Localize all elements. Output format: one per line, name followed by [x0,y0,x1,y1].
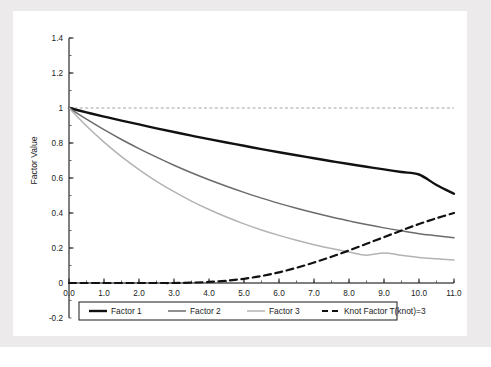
y-axis-title: Factor Value [29,136,39,184]
x-axis-tick-label: 11.0 [446,289,462,298]
y-axis-tick-label: 0.8 [52,139,64,148]
x-axis-tick-label: 8.0 [343,289,355,298]
y-axis-tick-label: 0.2 [52,244,64,253]
y-axis-tick-label: 0 [58,279,63,288]
y-axis-tick-label: 1.2 [52,69,64,78]
x-axis-tick-label: 9.0 [378,289,390,298]
line-chart: -0.200.20.40.60.811.21.40.01.02.03.04.05… [13,11,467,336]
y-axis-tick-label: 0.6 [52,174,64,183]
legend-label-3: Factor 3 [269,306,300,316]
legend-label-4: Knot Factor T(knot)=3 [344,306,426,316]
x-axis-tick-label: 7.0 [308,289,320,298]
chart-plot-area: -0.200.20.40.60.811.21.40.01.02.03.04.05… [13,11,467,336]
legend-label-2: Factor 2 [190,306,221,316]
x-axis-tick-label: 10.0 [411,289,427,298]
y-axis-tick-label: -0.2 [49,314,64,323]
x-axis-tick-label: 5.0 [238,289,250,298]
plot-background [13,11,467,336]
figure-panel: -0.200.20.40.60.811.21.40.01.02.03.04.05… [13,11,467,336]
x-axis-tick-label: 1.0 [98,289,110,298]
x-axis-tick-label: 4.0 [203,289,215,298]
x-axis-tick-label: 2.0 [133,289,145,298]
x-axis-tick-label: 3.0 [168,289,180,298]
y-axis-tick-label: 1 [58,104,63,113]
x-axis-tick-label: 6.0 [273,289,285,298]
y-axis-tick-label: 1.4 [52,34,64,43]
legend-label-1: Factor 1 [111,306,142,316]
x-axis-tick-label: 0.0 [63,289,75,298]
figure-page: -0.200.20.40.60.811.21.40.01.02.03.04.05… [0,0,491,367]
caption-strip: (a) Exponential loading factors [0,347,491,367]
y-axis-tick-label: 0.4 [52,209,64,218]
